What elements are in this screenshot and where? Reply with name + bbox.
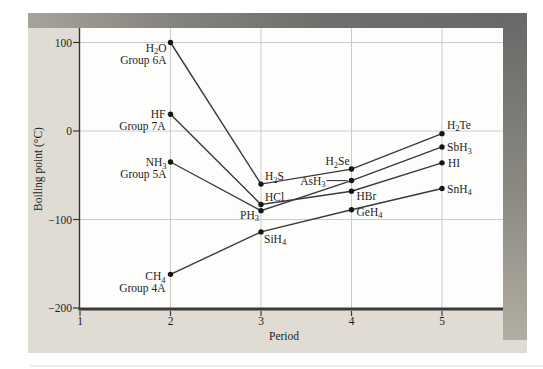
x-axis-title: Period xyxy=(269,330,299,342)
data-point-geh4 xyxy=(349,207,354,212)
group-label-nh3: Group 5A xyxy=(120,168,167,181)
data-point-sbh3 xyxy=(439,144,444,149)
x-tick-label: 2 xyxy=(168,315,174,327)
y-tick-label: 100 xyxy=(55,37,73,49)
x-tick-label: 4 xyxy=(349,315,355,327)
boiling-point-chart: 123451000−100−200H2OGroup 6AH2SH2SeH2TeH… xyxy=(0,0,543,369)
data-point-h2se xyxy=(349,166,354,171)
panel-right-shadow-band xyxy=(503,13,527,340)
y-axis-title: Boiling point (°C) xyxy=(32,127,45,211)
data-point-hi xyxy=(439,160,444,165)
data-point-sih4 xyxy=(258,229,263,234)
x-tick-label: 3 xyxy=(258,315,264,327)
x-tick-label: 5 xyxy=(439,315,445,327)
group-label-hf: Group 7A xyxy=(119,120,166,133)
data-point-snh4 xyxy=(439,186,444,191)
data-point-nh3 xyxy=(168,159,173,164)
point-label-hf: HF xyxy=(151,108,166,120)
data-point-hf xyxy=(168,111,173,116)
x-tick-label: 1 xyxy=(77,315,83,327)
point-label-hbr: HBr xyxy=(357,190,377,202)
y-tick-label: −100 xyxy=(48,214,72,226)
data-point-hcl xyxy=(258,202,263,207)
data-point-hbr xyxy=(349,188,354,193)
data-point-ph3 xyxy=(258,208,263,213)
panel-top-shadow-band xyxy=(28,13,527,28)
data-point-ch4 xyxy=(168,272,173,277)
group-label-ch4: Group 4A xyxy=(119,282,166,295)
y-tick-label: −200 xyxy=(48,302,72,314)
point-label-hi: HI xyxy=(448,157,460,169)
data-point-h2o xyxy=(168,40,173,45)
y-tick-label: 0 xyxy=(66,125,72,137)
data-point-h2s xyxy=(258,181,263,186)
page: 123451000−100−200H2OGroup 6AH2SH2SeH2TeH… xyxy=(0,0,543,369)
data-point-ash3 xyxy=(349,178,354,183)
point-label-hcl: HCl xyxy=(265,191,284,203)
data-point-h2te xyxy=(439,131,444,136)
group-label-h2o: Group 6A xyxy=(120,54,167,67)
